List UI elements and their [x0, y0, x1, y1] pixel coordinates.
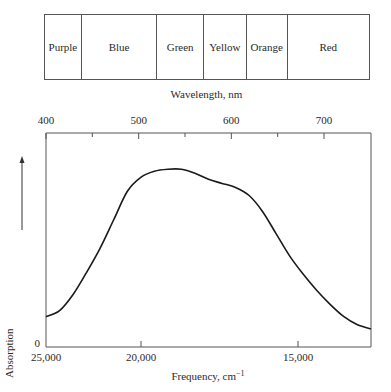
- wavelength-tick-label: 400: [38, 114, 55, 126]
- absorption-axis-label: Absorption: [2, 200, 16, 310]
- wavelength-tick-label: 700: [316, 114, 333, 126]
- frequency-tick-label: 20,000: [126, 351, 157, 363]
- frequency-tick-label: 25,000: [31, 351, 62, 363]
- frequency-tick-label: 15,000: [283, 351, 314, 363]
- y-zero-label: 0: [35, 337, 41, 349]
- wavelength-tick-label: 600: [223, 114, 240, 126]
- wavelength-axis-ticks: 400500600700: [38, 114, 333, 139]
- frequency-axis-ticks: 25,00020,00015,000: [31, 341, 314, 363]
- frequency-axis-label: Frequency, cm−1: [171, 369, 244, 382]
- wavelength-tick-label: 500: [130, 114, 147, 126]
- plot-frame: [46, 133, 371, 347]
- arrow-up-icon: [20, 156, 25, 230]
- absorption-curve: [46, 169, 371, 329]
- absorption-chart: 400500600700 25,00020,00015,000 0 Freque…: [0, 0, 391, 392]
